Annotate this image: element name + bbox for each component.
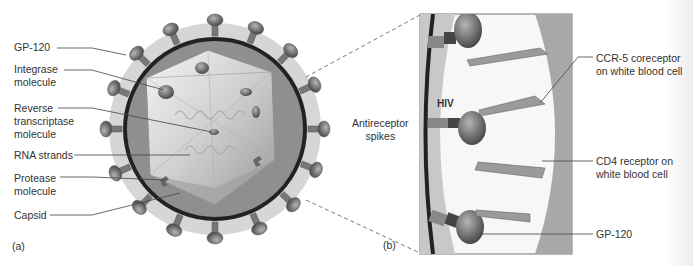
label-gp120-b: GP-120 <box>596 228 632 241</box>
panel-b-tag: (b) <box>383 239 396 252</box>
label-hiv: HIV <box>437 97 454 110</box>
label-ccr5: CCR-5 coreceptor on white blood cell <box>596 52 682 78</box>
virion <box>50 14 330 244</box>
hiv-diagram <box>0 0 693 266</box>
label-capsid: Capsid <box>14 209 47 222</box>
panel-a-tag: (a) <box>12 240 25 253</box>
label-protease: Protease molecule <box>14 172 56 198</box>
label-cd4: CD4 receptor on white blood cell <box>596 155 673 181</box>
label-gp120: GP-120 <box>14 41 50 54</box>
label-antireceptor-spikes: Antireceptor spikes <box>352 117 409 143</box>
label-integrase: Integrase molecule <box>14 63 58 89</box>
integrase-molecule <box>158 85 174 99</box>
inset-panel <box>420 12 593 254</box>
label-reverse-transcriptase: Reverse transcriptase molecule <box>14 102 74 141</box>
label-rna-strands: RNA strands <box>14 149 73 162</box>
